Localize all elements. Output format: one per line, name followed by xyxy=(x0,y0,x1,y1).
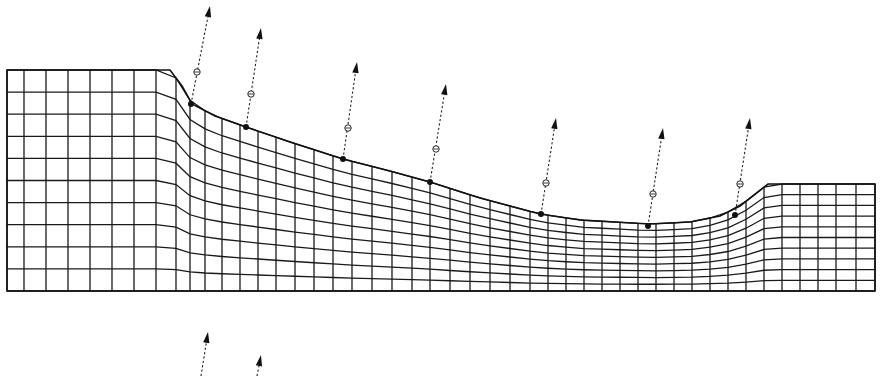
normal-vector xyxy=(243,28,263,130)
fem-mesh xyxy=(7,70,875,291)
surface-node-dot xyxy=(538,211,544,217)
arrowhead-icon xyxy=(441,84,447,95)
dashed-vector-line xyxy=(343,73,355,159)
surface-node-dot xyxy=(427,179,433,185)
mesh-row-line xyxy=(7,203,875,264)
arrowhead-icon xyxy=(256,28,262,39)
normal-vector xyxy=(732,118,751,218)
mesh-figure xyxy=(0,0,881,376)
arrowhead-icon xyxy=(551,118,557,129)
dashed-vector-line xyxy=(257,366,259,376)
mesh-row-line xyxy=(7,114,875,237)
dashed-vector-line xyxy=(648,139,661,226)
normal-vector xyxy=(340,62,359,162)
normal-vector xyxy=(188,6,211,107)
partial-normal-vector xyxy=(201,332,209,376)
dashed-vector-line xyxy=(430,95,444,182)
arrowhead-icon xyxy=(352,62,358,73)
surface-node-dot xyxy=(340,156,346,162)
arrowhead-icon xyxy=(203,332,209,343)
dashed-vector-line xyxy=(246,39,259,127)
dashed-vector-line xyxy=(191,17,208,104)
partial-normal-vectors xyxy=(201,332,262,376)
normal-vector xyxy=(427,84,447,185)
mesh-row-line xyxy=(7,92,875,230)
mesh-row-line xyxy=(7,181,875,258)
mesh-row-line xyxy=(7,70,875,224)
mesh-row-line xyxy=(7,247,875,278)
normal-vector xyxy=(538,118,557,217)
arrowhead-icon xyxy=(205,6,211,17)
dashed-vector-line xyxy=(201,343,206,376)
mesh-row-line xyxy=(7,225,875,271)
arrowhead-icon xyxy=(658,128,664,139)
surface-node-dot xyxy=(243,124,249,130)
partial-normal-vector xyxy=(256,355,262,376)
mesh-row-line xyxy=(7,269,875,284)
normal-vector xyxy=(645,128,664,229)
dashed-vector-line xyxy=(541,129,554,214)
mesh-row-line xyxy=(7,158,875,250)
surface-node-dot xyxy=(732,212,738,218)
arrowhead-icon xyxy=(256,355,262,366)
arrowhead-icon xyxy=(745,118,751,129)
surface-node-dot xyxy=(645,223,651,229)
surface-node-dot xyxy=(188,101,194,107)
